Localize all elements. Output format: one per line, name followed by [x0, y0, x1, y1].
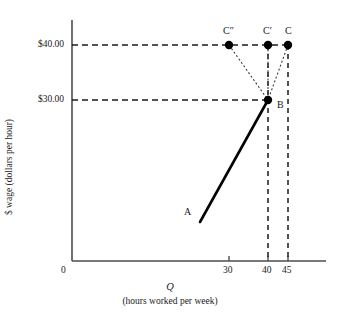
point-label-C: C — [285, 26, 292, 36]
y-axis-title: $ wage (dollars per hour) — [0, 96, 18, 246]
budget-line-C-to-B — [268, 45, 288, 100]
point-label-A: A — [184, 207, 191, 217]
x-origin-label: 0 — [61, 266, 66, 276]
point-label-B: B — [277, 100, 284, 110]
x-axis-subtitle: (hours worked per week) — [0, 297, 340, 307]
budget-line-C-double-prime-to-B — [229, 45, 268, 100]
point-label-C-double-prime: C″ — [223, 26, 234, 36]
labor-supply-curve-AB — [200, 100, 268, 222]
data-point-B — [264, 96, 272, 104]
wage-hours-chart: $40.00 $30.00 0 30 40 45 C″ C′ C B A $ w… — [0, 0, 340, 316]
data-point-C — [284, 41, 292, 49]
y-tick-label-30: $30.00 — [18, 95, 64, 105]
y-tick-label-40: $40.00 — [18, 40, 64, 50]
x-axis-title: Q — [0, 282, 340, 293]
x-tick-label-45: 45 — [282, 266, 292, 276]
data-point-C-double-prime — [225, 41, 233, 49]
data-point-C-prime — [264, 41, 272, 49]
x-tick-label-30: 30 — [223, 266, 233, 276]
point-label-C-prime: C′ — [263, 26, 272, 36]
y-axis-title-text: $ wage (dollars per hour) — [4, 92, 14, 242]
x-tick-label-40: 40 — [262, 266, 272, 276]
